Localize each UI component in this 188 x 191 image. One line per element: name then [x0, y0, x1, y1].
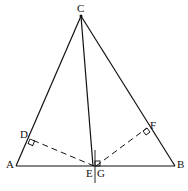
- label-c: C: [77, 2, 84, 14]
- label-f: F: [150, 119, 156, 131]
- segment-bc: [81, 16, 175, 166]
- label-b: B: [177, 158, 184, 170]
- segment-gd-dashed: [30, 139, 94, 166]
- segment-ce: [81, 16, 93, 166]
- label-a: A: [6, 158, 14, 170]
- vertex-c-dot: [80, 15, 83, 18]
- right-angle-mark-d: [28, 139, 35, 146]
- label-d: D: [20, 128, 28, 140]
- segment-ac: [16, 16, 81, 166]
- label-g: G: [97, 167, 105, 179]
- segment-gf-dashed: [96, 128, 147, 166]
- label-e: E: [86, 167, 93, 179]
- right-angle-mark-f: [143, 128, 150, 135]
- triangle-diagram: C A B D F E G: [0, 0, 188, 191]
